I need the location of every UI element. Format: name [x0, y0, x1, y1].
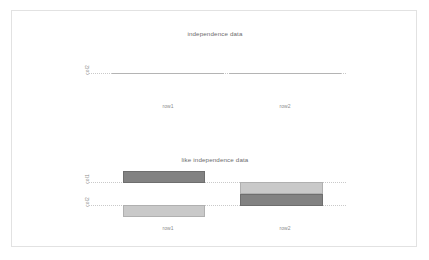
panel-title-top: independence data	[12, 30, 418, 37]
panel-independence-data: independence data col2 row1 row2	[12, 11, 418, 131]
bar-row2-col2	[240, 194, 323, 206]
bar-row2-col1	[240, 182, 323, 194]
x-axis-label-row1-top: row1	[138, 103, 198, 109]
bar-row1-col1	[123, 171, 205, 183]
x-axis-label-row1-bottom: row1	[138, 225, 198, 231]
x-axis-label-row2-top: row2	[255, 103, 315, 109]
bar-row1-col2	[123, 205, 205, 217]
chart-frame: independence data col2 row1 row2 like in…	[11, 10, 417, 247]
panel-like-independence-data: like independence data col1 col2 row1 ro…	[12, 131, 418, 248]
screenshot-canvas: independence data col2 row1 row2 like in…	[0, 0, 429, 260]
x-axis-label-row2-bottom: row2	[255, 225, 315, 231]
y-axis-label-col2-top: col2	[84, 58, 90, 82]
zero-bar-row1-col2	[112, 73, 224, 74]
y-axis-label-col2-bottom: col2	[84, 190, 90, 214]
y-axis-label-col1-bottom: col1	[84, 167, 90, 191]
zero-bar-row2-col2	[229, 73, 341, 74]
panel-title-bottom: like independence data	[12, 156, 418, 163]
